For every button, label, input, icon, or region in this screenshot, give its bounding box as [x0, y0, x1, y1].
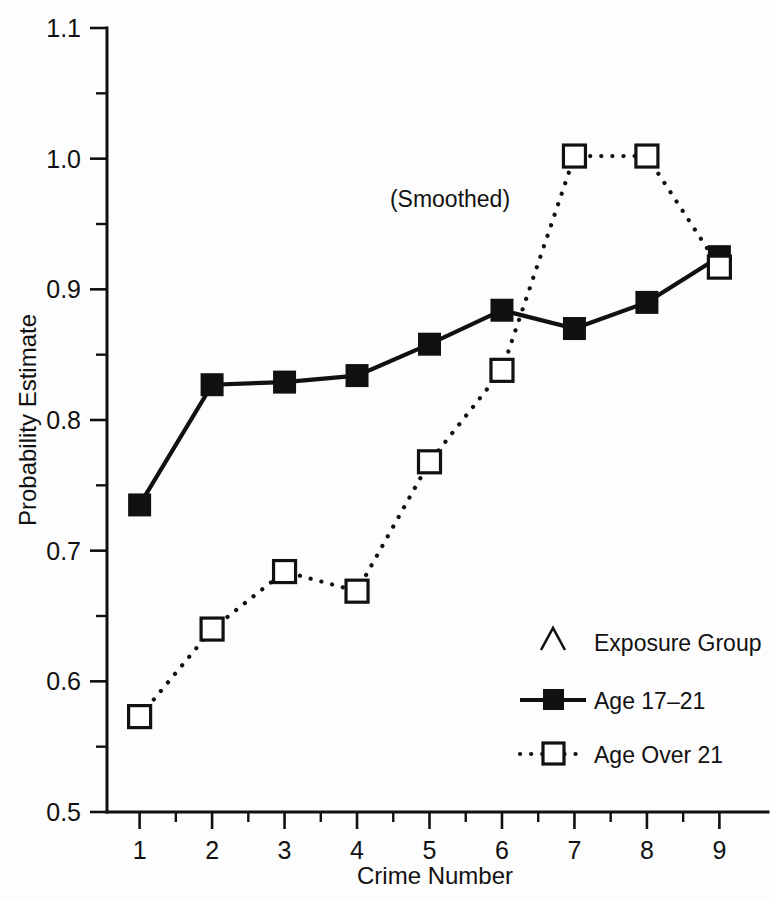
data-point-filled-square[interactable]	[347, 365, 368, 386]
data-point-filled-square[interactable]	[419, 334, 440, 355]
probability-estimate-line-chart: 0.50.60.70.80.91.01.1 123456789 Probabil…	[0, 0, 770, 900]
x-tick-label: 4	[350, 836, 364, 864]
data-point-filled-square[interactable]	[129, 494, 150, 515]
y-tick-label: 0.5	[46, 798, 81, 826]
data-point-open-square[interactable]	[346, 580, 368, 602]
y-tick-label: 1.0	[46, 145, 81, 173]
y-axis-tick-labels: 0.50.60.70.80.91.01.1	[46, 14, 81, 826]
y-tick-label: 0.9	[46, 275, 81, 303]
x-tick-label: 3	[278, 836, 292, 864]
data-point-open-square[interactable]	[708, 256, 730, 278]
legend-title: Exposure Group	[594, 630, 761, 656]
legend: Exposure Group Age 17–21 Age Over 21	[520, 628, 761, 768]
data-point-filled-square[interactable]	[202, 374, 223, 395]
data-point-filled-square[interactable]	[491, 300, 512, 321]
x-tick-label: 8	[640, 836, 654, 864]
y-tick-label: 0.7	[46, 537, 81, 565]
x-tick-label: 9	[712, 836, 726, 864]
data-point-filled-square[interactable]	[564, 318, 585, 339]
caret-icon	[541, 628, 565, 650]
data-point-open-square[interactable]	[491, 359, 513, 381]
legend-label-age-over-21: Age Over 21	[594, 742, 723, 768]
y-axis-label: Probability Estimate	[14, 314, 41, 526]
smoothed-annotation: (Smoothed)	[390, 186, 510, 212]
y-tick-label: 0.6	[46, 667, 81, 695]
data-point-open-square[interactable]	[129, 706, 151, 728]
data-point-filled-square[interactable]	[274, 372, 295, 393]
legend-item-age-17-21[interactable]: Age 17–21	[520, 688, 705, 714]
x-axis-ticks	[140, 812, 720, 829]
data-point-open-square[interactable]	[636, 145, 658, 167]
y-tick-label: 1.1	[46, 14, 81, 42]
axes: 0.50.60.70.80.91.01.1 123456789	[46, 14, 768, 864]
x-axis-label: Crime Number	[357, 862, 513, 889]
data-point-open-square[interactable]	[201, 618, 223, 640]
legend-item-age-over-21[interactable]: Age Over 21	[520, 742, 723, 768]
data-point-open-square[interactable]	[563, 145, 585, 167]
data-point-filled-square[interactable]	[636, 292, 657, 313]
x-tick-label: 1	[133, 836, 147, 864]
y-axis-ticks	[90, 28, 107, 812]
series-markers-age-17-21	[129, 246, 730, 515]
x-tick-label: 2	[205, 836, 219, 864]
x-tick-label: 6	[495, 836, 509, 864]
legend-filled-square-icon	[544, 690, 563, 709]
legend-label-age-17-21: Age 17–21	[594, 688, 705, 714]
x-tick-label: 7	[567, 836, 581, 864]
chart-container: 0.50.60.70.80.91.01.1 123456789 Probabil…	[0, 0, 770, 900]
data-point-open-square[interactable]	[274, 561, 296, 583]
x-tick-label: 5	[423, 836, 437, 864]
y-tick-label: 0.8	[46, 406, 81, 434]
x-axis-tick-labels: 123456789	[133, 836, 727, 864]
legend-open-square-icon	[543, 743, 564, 764]
data-point-open-square[interactable]	[419, 451, 441, 473]
